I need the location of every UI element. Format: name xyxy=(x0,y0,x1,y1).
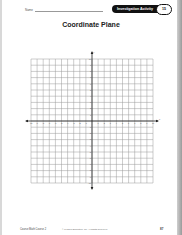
svg-text:9: 9 xyxy=(146,122,148,124)
svg-text:-5: -5 xyxy=(61,122,64,124)
svg-text:-5: -5 xyxy=(89,151,92,153)
svg-text:y: y xyxy=(93,51,95,54)
svg-text:6: 6 xyxy=(90,83,92,85)
svg-text:-2: -2 xyxy=(89,132,92,134)
svg-text:-3: -3 xyxy=(73,122,76,124)
svg-text:3: 3 xyxy=(110,122,112,124)
svg-text:-2: -2 xyxy=(79,122,82,124)
svg-text:8: 8 xyxy=(140,122,142,124)
svg-text:2: 2 xyxy=(90,107,92,109)
svg-text:-4: -4 xyxy=(67,122,70,124)
svg-text:-4: -4 xyxy=(89,145,92,147)
svg-text:-8: -8 xyxy=(42,122,45,124)
page-number: 87 xyxy=(160,227,163,231)
svg-text:10: 10 xyxy=(152,122,155,124)
svg-text:9: 9 xyxy=(90,64,92,66)
svg-text:-6: -6 xyxy=(55,122,58,124)
svg-text:-10: -10 xyxy=(88,182,92,184)
svg-text:4: 4 xyxy=(116,122,118,124)
coordinate-plane-grid: -10-9-8-7-6-5-4-3-2-11234567891010987654… xyxy=(0,0,182,235)
svg-text:-10: -10 xyxy=(30,122,34,124)
svg-text:2: 2 xyxy=(104,122,106,124)
svg-text:1: 1 xyxy=(90,114,92,116)
svg-text:4: 4 xyxy=(90,95,92,97)
svg-text:5: 5 xyxy=(90,89,92,91)
svg-text:10: 10 xyxy=(89,58,92,60)
svg-text:-7: -7 xyxy=(89,163,92,165)
svg-text:1: 1 xyxy=(98,122,100,124)
svg-text:-7: -7 xyxy=(48,122,51,124)
svg-text:-9: -9 xyxy=(89,176,92,178)
svg-text:3: 3 xyxy=(90,101,92,103)
footer-copyright: © Pearson Education, Inc. All Rights Res… xyxy=(62,228,108,230)
svg-text:-1: -1 xyxy=(85,122,88,124)
svg-text:7: 7 xyxy=(90,76,92,78)
svg-text:5: 5 xyxy=(122,122,124,124)
svg-text:7: 7 xyxy=(134,122,136,124)
svg-text:x: x xyxy=(159,118,161,121)
footer-course: Course Math Course 2 xyxy=(20,228,46,231)
svg-text:6: 6 xyxy=(128,122,130,124)
svg-text:-6: -6 xyxy=(89,157,92,159)
svg-text:-3: -3 xyxy=(89,138,92,140)
svg-text:-1: -1 xyxy=(89,126,92,128)
svg-text:-9: -9 xyxy=(36,122,39,124)
svg-text:-8: -8 xyxy=(89,169,92,171)
svg-text:8: 8 xyxy=(90,70,92,72)
